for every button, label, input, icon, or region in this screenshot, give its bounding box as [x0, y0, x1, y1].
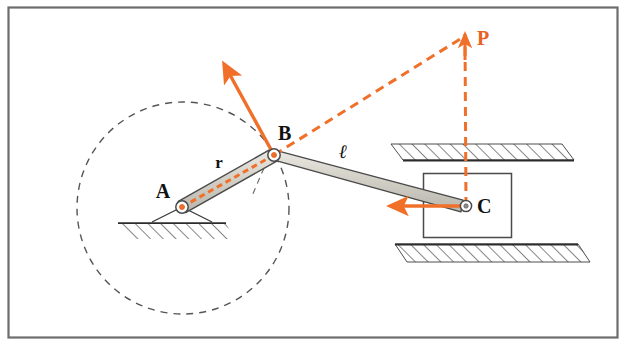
label-point-b: B	[278, 122, 291, 144]
guide-top	[391, 144, 574, 161]
label-rod-length-l: ℓ	[339, 141, 347, 162]
figure-frame	[9, 8, 618, 338]
figure-canvas: A B C P r ℓ	[0, 0, 644, 348]
pin-joint-a[interactable]	[176, 201, 188, 213]
label-crank-length-r: r	[215, 153, 223, 172]
label-point-c: C	[477, 195, 491, 217]
mechanism-diagram: A B C P r ℓ	[0, 0, 644, 348]
label-point-p: P	[477, 27, 489, 49]
pin-joint-b[interactable]	[268, 149, 280, 161]
label-point-a: A	[156, 180, 171, 202]
guide-bottom	[395, 244, 590, 262]
pin-joint-c[interactable]	[460, 200, 471, 211]
